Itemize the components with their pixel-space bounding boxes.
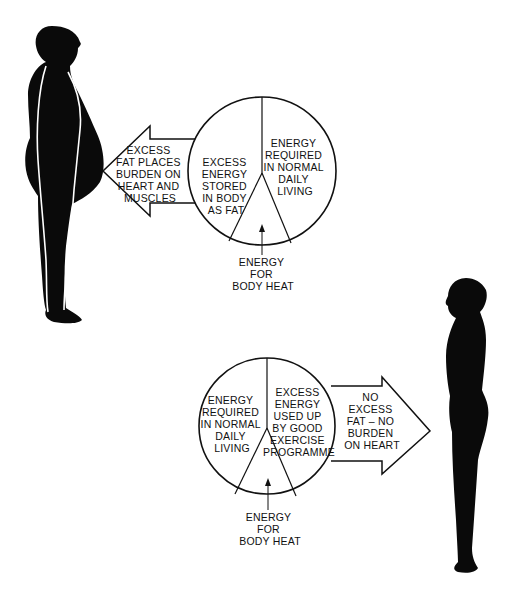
bottom-pie-body-heat-label: ENERGY FOR BODY HEAT (239, 511, 301, 547)
top-energy-pie-chart: EXCESS ENERGY STORED IN BODY AS FAT ENER… (188, 97, 336, 292)
bottom-energy-pie-chart: ENERGY REQUIRED IN NORMAL DAILY LIVING E… (199, 358, 335, 547)
energy-balance-diagram: EXCESS FAT PLACES BURDEN ON HEART AND MU… (0, 0, 515, 595)
fit-man-silhouette (446, 278, 489, 573)
top-pie-body-heat-label: ENERGY FOR BODY HEAT (232, 256, 294, 292)
top-pie-left-segment-text: EXCESS ENERGY STORED IN BODY AS FAT (202, 156, 250, 216)
overweight-man-silhouette (25, 26, 103, 323)
